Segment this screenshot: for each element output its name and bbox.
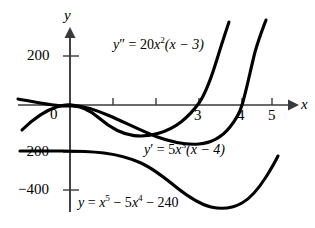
figure-canvas: y x 200 0 −200 −400 3 4 5 y″ = 20x2(x − … xyxy=(0,0,315,228)
y-tick-label-neg200: −200 xyxy=(18,144,49,159)
equation-second-derivative: y″ = 20x2(x − 3) xyxy=(113,36,204,52)
x-axis-ticks xyxy=(113,98,272,105)
eq1-factor: (x − 4) xyxy=(186,142,225,157)
x-tick-label-4: 4 xyxy=(237,108,245,123)
eq2-factor: (x − 3) xyxy=(165,37,204,52)
axis-group xyxy=(18,36,288,212)
eq2-equals: = xyxy=(129,37,137,52)
origin-label: 0 xyxy=(50,107,58,122)
y-tick-label-200: 200 xyxy=(27,48,50,63)
y-axis-arrowhead xyxy=(65,27,76,38)
x-axis-label: x xyxy=(301,97,308,112)
eq0-term3: − 240 xyxy=(146,195,178,210)
x-tick-label-5: 5 xyxy=(268,108,276,123)
x-tick-label-3: 3 xyxy=(194,108,202,123)
x-axis-arrowhead xyxy=(288,100,299,111)
eq0-term2: − 5 xyxy=(113,195,131,210)
y-axis-ticks xyxy=(63,56,79,190)
equation-function: y = x5 − 5x4 − 240 xyxy=(78,194,179,210)
eq0-term1-exponent: 5 xyxy=(105,193,110,203)
equation-first-derivative: y′ = 5x3(x − 4) xyxy=(144,141,225,157)
eq2-coefficient: 20 xyxy=(140,37,154,52)
eq0-term2-exponent: 4 xyxy=(138,193,143,203)
eq0-equals: = xyxy=(88,195,96,210)
y-axis-label: y xyxy=(64,8,71,23)
eq1-prime: ′ xyxy=(150,142,153,157)
eq2-prime: ″ xyxy=(119,37,125,52)
y-tick-label-neg400: −400 xyxy=(18,182,49,197)
eq0-lhs: y xyxy=(78,195,84,210)
eq1-equals: = xyxy=(157,142,165,157)
